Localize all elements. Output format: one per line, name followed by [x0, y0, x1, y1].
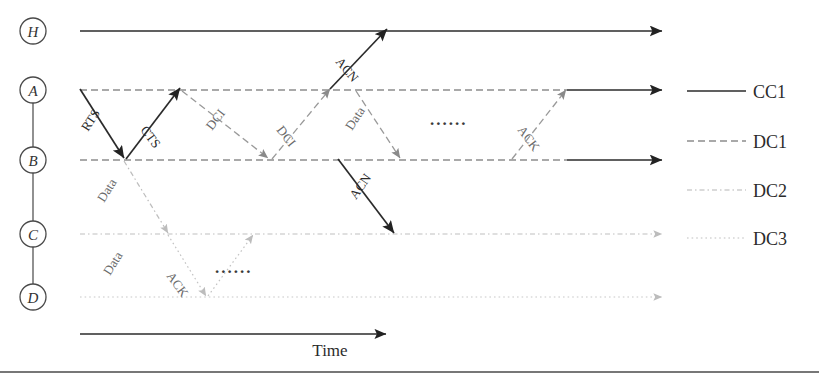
- ellipsis-group: ............: [215, 110, 468, 277]
- message-arrow-dci-5: [182, 91, 268, 158]
- node-label-b: B: [28, 153, 37, 169]
- timing-diagram-svg: RTSCTSDataDataACKDCIDCIACNACNDataACK HAB…: [0, 0, 819, 382]
- ellipsis-dots-1: ......: [215, 258, 253, 277]
- message-label-data-2: Data: [94, 176, 120, 205]
- legend-label-dc1: DC1: [753, 132, 787, 152]
- node-label-c: C: [28, 227, 39, 243]
- message-arrow-ack-10: [512, 90, 566, 159]
- message-label-dci-6: DCI: [274, 123, 300, 150]
- legend-label-dc3: DC3: [753, 229, 787, 249]
- message-arrow-dci-6: [272, 89, 330, 159]
- messages-group: RTSCTSDataDataACKDCIDCIACNACNDataACK: [78, 29, 566, 300]
- message-label-ack-4: ACK: [164, 269, 193, 301]
- legend-label-dc2: DC2: [753, 181, 787, 201]
- figure-canvas: RTSCTSDataDataACKDCIDCIACNACNDataACK HAB…: [0, 0, 819, 382]
- ellipsis-dots-0: ......: [430, 110, 468, 129]
- message-label-cts-1: CTS: [138, 123, 164, 151]
- node-label-h: H: [27, 24, 40, 40]
- timelines-group: [80, 31, 662, 297]
- message-label-rts-0: RTS: [78, 106, 103, 134]
- time-axis-group: Time: [80, 334, 386, 360]
- legend-group: CC1DC1DC2DC3: [687, 82, 787, 249]
- legend-label-cc1: CC1: [753, 82, 786, 102]
- message-arrow-acn-8: [338, 159, 394, 233]
- node-label-d: D: [27, 290, 39, 306]
- node-label-a: A: [27, 83, 38, 99]
- message-label-dci-5: DCI: [203, 106, 229, 133]
- message-arrow-data-9: [356, 91, 400, 158]
- message-arrow-data-2: [124, 161, 168, 233]
- time-axis-label: Time: [312, 341, 347, 360]
- message-label-data-9: Data: [342, 104, 368, 133]
- message-label-data-3: Data: [100, 249, 126, 278]
